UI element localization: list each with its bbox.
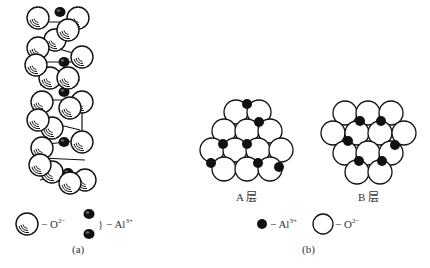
aluminum-legend-icon-1: [84, 209, 95, 219]
panel-b-caption: (b): [302, 243, 315, 255]
layer-a: [200, 99, 293, 181]
aluminum-legend-icon-2: [84, 229, 95, 239]
oxygen-legend-label-b: − O2−: [335, 217, 359, 230]
layer-a-label: A 层: [236, 188, 257, 204]
oxygen-legend-icon: [16, 213, 38, 235]
aluminum-legend-label: } − Al3+: [98, 217, 133, 230]
oxygen-legend-label: − O2−: [41, 217, 65, 230]
oxygen-legend-circle: [313, 214, 333, 234]
panel-a-chain: [25, 7, 96, 194]
panel-a-caption: (a): [72, 243, 84, 255]
aluminum-legend-dot: [257, 219, 267, 229]
layer-b: [321, 101, 416, 184]
layer-b-label: B 层: [358, 188, 379, 204]
aluminum-legend-label-b: − Al3+: [270, 217, 297, 230]
